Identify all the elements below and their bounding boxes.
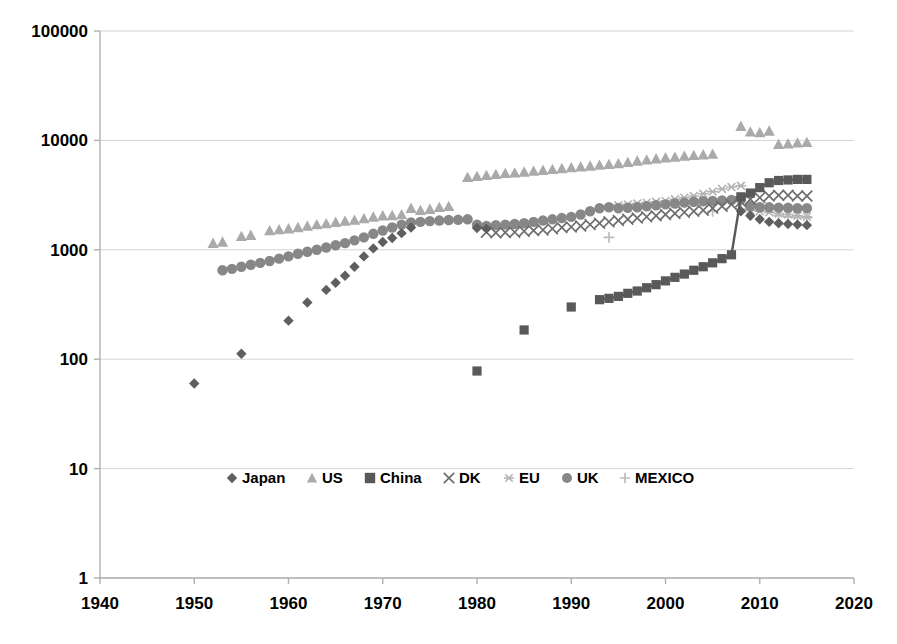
data-point-marker	[321, 242, 331, 252]
data-point-marker	[378, 225, 388, 235]
data-point-marker	[575, 209, 585, 219]
data-point-marker	[736, 192, 745, 201]
data-point-marker	[642, 283, 651, 292]
data-point-marker	[708, 258, 717, 267]
legend-marker-china	[365, 473, 375, 483]
legend-label: MEXICO	[635, 469, 695, 486]
data-point-marker	[689, 266, 698, 275]
x-tick-label: 1990	[552, 594, 590, 613]
legend-label: China	[380, 469, 422, 486]
x-tick-label: 2000	[647, 594, 685, 613]
data-point-marker	[604, 294, 613, 303]
x-tick-label: 2010	[741, 594, 779, 613]
data-point-marker	[651, 280, 660, 289]
x-tick-label: 1950	[175, 594, 213, 613]
data-point-marker	[566, 212, 576, 222]
data-point-marker	[246, 260, 256, 270]
data-point-marker	[613, 203, 623, 213]
data-point-marker	[717, 195, 727, 205]
x-tick-label: 1970	[364, 594, 402, 613]
data-point-marker	[359, 232, 369, 242]
data-point-marker	[585, 206, 595, 216]
data-point-marker	[764, 202, 774, 212]
x-axis-tick-labels: 194019501960197019801990200020102020	[81, 594, 873, 613]
data-point-marker	[293, 249, 303, 259]
legend-label: Japan	[242, 469, 285, 486]
data-point-marker	[670, 198, 680, 208]
data-point-marker	[567, 302, 576, 311]
data-point-marker	[614, 292, 623, 301]
data-point-marker	[595, 295, 604, 304]
data-point-marker	[755, 183, 764, 192]
data-point-marker	[425, 216, 435, 226]
data-point-marker	[670, 273, 679, 282]
data-point-marker	[802, 203, 812, 213]
data-point-marker	[264, 256, 274, 266]
chart-container: 110100100010000100000 194019501960197019…	[0, 0, 897, 644]
data-point-marker	[462, 214, 472, 224]
data-point-marker	[538, 215, 548, 225]
data-point-marker	[330, 240, 340, 250]
legend-marker-uk	[562, 473, 572, 483]
data-point-marker	[236, 262, 246, 272]
data-point-marker	[453, 215, 463, 225]
data-point-marker	[594, 203, 604, 213]
data-point-marker	[349, 235, 359, 245]
y-tick-label: 100	[60, 350, 88, 369]
data-point-marker	[793, 175, 802, 184]
data-point-marker	[623, 203, 633, 213]
y-tick-label: 10	[69, 460, 88, 479]
data-point-marker	[660, 199, 670, 209]
data-point-marker	[557, 213, 567, 223]
data-point-marker	[651, 200, 661, 210]
data-point-marker	[661, 276, 670, 285]
chart-background	[0, 0, 897, 644]
data-point-marker	[783, 175, 792, 184]
data-point-marker	[547, 214, 557, 224]
legend-label: EU	[519, 469, 540, 486]
data-point-marker	[727, 250, 736, 259]
x-tick-label: 2020	[835, 594, 873, 613]
data-point-marker	[679, 197, 689, 207]
x-tick-label: 1980	[458, 594, 496, 613]
data-point-marker	[520, 325, 529, 334]
data-point-marker	[699, 262, 708, 271]
data-point-marker	[765, 178, 774, 187]
data-point-marker	[387, 222, 397, 232]
log-scatter-chart: 110100100010000100000 194019501960197019…	[0, 0, 897, 644]
data-point-marker	[528, 217, 538, 227]
data-point-marker	[792, 203, 802, 213]
legend-label: DK	[459, 469, 481, 486]
data-point-marker	[227, 264, 237, 274]
data-point-marker	[302, 247, 312, 257]
data-point-marker	[434, 215, 444, 225]
data-point-marker	[368, 229, 378, 239]
data-point-marker	[717, 254, 726, 263]
data-point-marker	[604, 202, 614, 212]
data-point-marker	[217, 265, 227, 275]
data-point-marker	[774, 176, 783, 185]
data-point-marker	[633, 286, 642, 295]
data-point-marker	[340, 238, 350, 248]
data-point-marker	[472, 366, 481, 375]
y-tick-label: 1000	[50, 241, 88, 260]
data-point-marker	[698, 196, 708, 206]
data-point-marker	[283, 251, 293, 261]
y-tick-label: 100000	[31, 22, 88, 41]
data-point-marker	[415, 217, 425, 227]
y-tick-label: 1	[79, 569, 88, 588]
x-tick-label: 1940	[81, 594, 119, 613]
data-point-marker	[680, 269, 689, 278]
x-tick-label: 1960	[270, 594, 308, 613]
data-point-marker	[274, 253, 284, 263]
data-point-marker	[632, 202, 642, 212]
data-point-marker	[773, 202, 783, 212]
legend-label: US	[322, 469, 343, 486]
data-point-marker	[623, 289, 632, 298]
data-point-marker	[802, 175, 811, 184]
data-point-marker	[641, 201, 651, 211]
data-point-marker	[444, 215, 454, 225]
y-tick-label: 10000	[41, 131, 88, 150]
data-point-marker	[312, 245, 322, 255]
legend-label: UK	[577, 469, 599, 486]
